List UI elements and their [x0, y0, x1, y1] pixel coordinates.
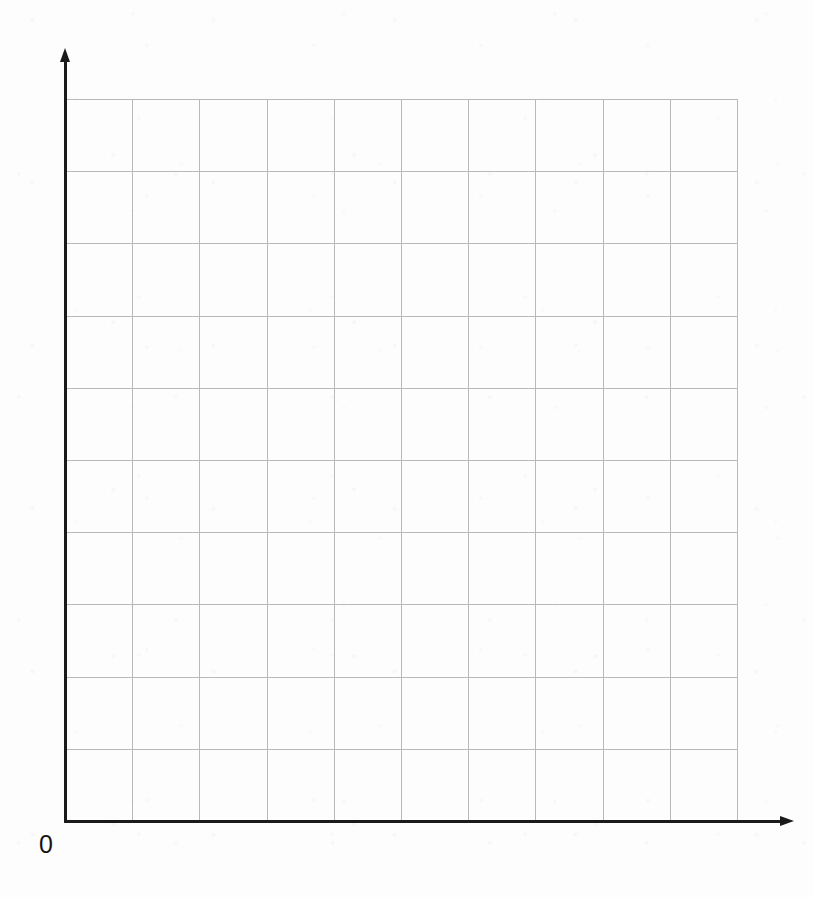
grid-line-vertical: [737, 99, 738, 821]
plot-area: [65, 99, 737, 821]
y-axis-line: [64, 60, 67, 823]
grid-line-horizontal: [65, 460, 737, 461]
grid-line-horizontal: [65, 243, 737, 244]
x-axis-line: [64, 820, 781, 823]
figure-canvas: 0: [0, 0, 813, 897]
grid-line-horizontal: [65, 532, 737, 533]
origin-label: 0: [39, 832, 53, 857]
grid-line-horizontal: [65, 604, 737, 605]
grid-line-horizontal: [65, 99, 737, 100]
grid-line-horizontal: [65, 749, 737, 750]
grid-line-horizontal: [65, 388, 737, 389]
grid-line-horizontal: [65, 677, 737, 678]
y-axis-arrow-icon: [60, 48, 70, 62]
grid-line-horizontal: [65, 316, 737, 317]
grid-lines: [65, 99, 737, 821]
grid-line-horizontal: [65, 171, 737, 172]
x-axis-arrow-icon: [780, 816, 794, 826]
